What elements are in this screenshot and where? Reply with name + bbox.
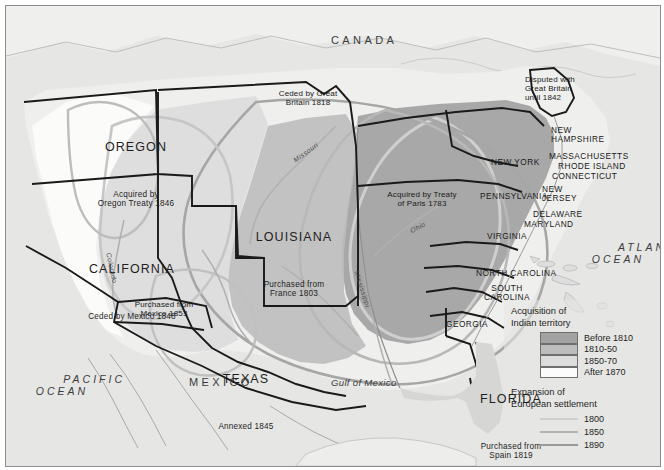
legend-swatch-1810-50 xyxy=(540,344,578,356)
legend-item: 1850-70 xyxy=(540,355,643,367)
legend-line-list: 1800 1850 1890 xyxy=(540,412,643,451)
legend-label-1800: 1800 xyxy=(584,414,604,424)
map-legend: Acquisition of Indian territory Before 1… xyxy=(511,306,643,451)
legend-label-1850: 1850 xyxy=(584,427,604,437)
legend-label-1890: 1890 xyxy=(584,440,604,450)
legend-line-1890 xyxy=(540,444,578,447)
legend-item: 1810-50 xyxy=(540,344,643,356)
legend-swatch-1850-70 xyxy=(540,355,578,367)
historical-map: CANADA MEXICO PACIFIC OCEAN ATLANTIC OCE… xyxy=(0,0,664,470)
legend-line-1800 xyxy=(540,418,578,421)
legend-item: 1850 xyxy=(540,425,643,438)
map-frame: CANADA MEXICO PACIFIC OCEAN ATLANTIC OCE… xyxy=(5,5,661,467)
legend-swatch-after-1870 xyxy=(540,367,578,379)
legend-label-1810-50: 1810-50 xyxy=(584,344,617,354)
legend-item: After 1870 xyxy=(540,367,643,379)
legend-heading-acquisition: Acquisition of Indian territory xyxy=(511,306,643,329)
legend-label-1850-70: 1850-70 xyxy=(584,356,617,366)
legend-label-before-1810: Before 1810 xyxy=(584,333,633,343)
legend-heading-expansion: Expansion of European settlement xyxy=(511,387,643,410)
legend-line-1850 xyxy=(540,431,578,434)
legend-item: 1890 xyxy=(540,438,643,451)
legend-swatch-before-1810 xyxy=(540,332,578,344)
legend-label-after-1870: After 1870 xyxy=(584,367,626,377)
legend-item: Before 1810 xyxy=(540,332,643,344)
legend-item: 1800 xyxy=(540,412,643,425)
legend-swatch-list: Before 1810 1810-50 1850-70 After 1870 xyxy=(540,332,643,378)
